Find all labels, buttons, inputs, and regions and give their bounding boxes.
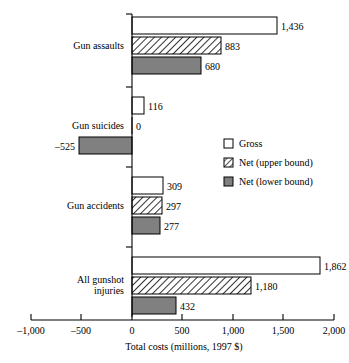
bar-chart-figure: –1,000 –500 0 500 1,000 1,500 2,000 Tota…: [0, 0, 349, 363]
x-tick-label-0: 0: [130, 325, 135, 336]
bar-net-lower-gun-accidents: [132, 217, 160, 234]
legend-entry-gross: Gross: [224, 138, 262, 149]
value-label-assault-lower: 680: [205, 61, 220, 72]
x-tick-label-2000: 2,000: [323, 325, 346, 336]
value-label-accident-gross: 309: [167, 181, 182, 192]
hatched-swatch: [224, 158, 233, 167]
bar-net-lower-all-gunshot-injuries: [132, 297, 176, 314]
legend-label-net-upper-bound: Net (upper bound): [239, 157, 313, 169]
category-label-gun-accidents: Gun accidents: [67, 200, 124, 211]
bar-net-upper-gun-assaults: [132, 37, 221, 54]
bar-gross-gun-suicides: [132, 97, 144, 114]
bar-gross-gun-accidents: [132, 177, 163, 194]
value-label-suicide-gross: 116: [148, 101, 163, 112]
white-swatch: [224, 139, 233, 148]
x-tick-label-1000: 1,000: [222, 325, 245, 336]
value-label-all-gross: 1,862: [324, 261, 347, 272]
x-tick-label--1000: –1,000: [16, 325, 45, 336]
category-label-gun-suicides: Gun suicides: [72, 120, 124, 131]
gray-swatch: [224, 177, 233, 186]
x-tick-label--500: –500: [70, 325, 91, 336]
legend-label-gross: Gross: [239, 138, 262, 149]
bar-gross-gun-assaults: [132, 17, 277, 34]
value-label-all-upper: 1,180: [255, 281, 278, 292]
bar-net-lower-gun-assaults: [132, 57, 201, 74]
legend-label-net-lower-bound: Net (lower bound): [239, 176, 313, 188]
chart-canvas: –1,000 –500 0 500 1,000 1,500 2,000 Tota…: [0, 0, 349, 363]
bar-group-gun-accidents: [132, 177, 163, 234]
bar-gross-all-gunshot-injuries: [132, 257, 320, 274]
bar-net-upper-all-gunshot-injuries: [132, 277, 251, 294]
category-label-gun-assaults: Gun assaults: [73, 40, 124, 51]
value-label-all-lower: 432: [180, 301, 195, 312]
value-label-accident-lower: 277: [164, 221, 179, 232]
bar-net-lower-gun-suicides: [79, 137, 132, 154]
value-label-suicide-upper: 0: [136, 121, 141, 132]
value-label-assault-upper: 883: [225, 41, 240, 52]
value-label-accident-upper: 297: [166, 201, 181, 212]
x-tick-label-500: 500: [175, 325, 190, 336]
x-axis-title: Total costs (millions, 1997 $): [125, 341, 242, 353]
value-label-assault-gross: 1,436: [281, 21, 304, 32]
value-label-suicide-lower: –525: [54, 141, 75, 152]
category-label-all-gunshot-injuries-line1: All gunshot: [77, 274, 124, 285]
x-tick-label-1500: 1,500: [272, 325, 295, 336]
bar-net-upper-gun-accidents: [132, 197, 162, 214]
category-label-all-gunshot-injuries-line2: injuries: [94, 285, 124, 296]
